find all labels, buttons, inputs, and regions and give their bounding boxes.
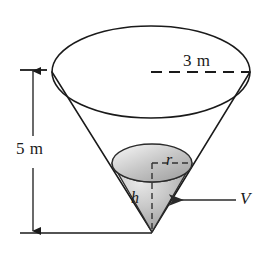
cone-diagram-figure: 3 m 5 m r h V xyxy=(0,0,274,259)
inner-radius-label: r xyxy=(166,152,172,168)
top-radius-label: 3 m xyxy=(183,52,210,69)
volume-label: V xyxy=(240,190,250,207)
inner-height-label: h xyxy=(131,190,139,206)
height-label: 5 m xyxy=(16,140,43,157)
cone-diagram-svg xyxy=(0,0,274,259)
